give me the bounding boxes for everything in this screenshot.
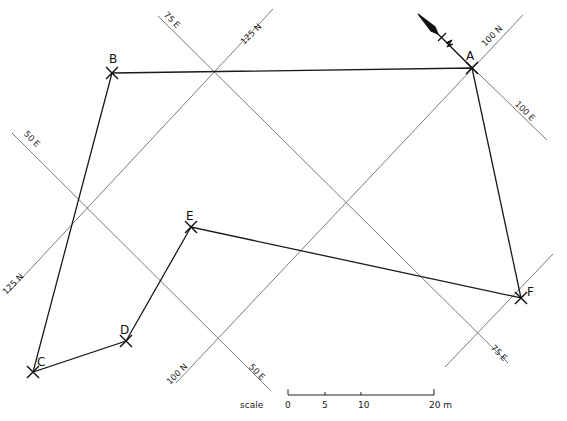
scale-tick-label: 5 [322,400,328,410]
plan-drawing: 75 E75 E125 N125 N50 E50 E100 N100 N100 … [0,0,567,421]
grid-line-125N [9,9,273,292]
station-c: C [27,355,45,378]
station-label: A [466,49,475,63]
grid-label: 100 N [479,23,504,48]
grid-label: 50 E [247,362,267,382]
station-d: D [120,323,132,347]
north-arrow-icon [418,14,472,68]
scale-label: scale [240,400,264,410]
grid-label: 125 N [0,271,25,296]
survey-plan-diagram: 75 E75 E125 N125 N50 E50 E100 N100 N100 … [0,0,567,421]
station-label: C [37,355,45,369]
traverse-lines [33,68,521,372]
traverse-polygon [33,68,521,372]
station-label: D [120,323,129,337]
north-tick [438,33,446,41]
grid-label: 75 E [489,343,509,363]
grid-label: 125 N [238,21,263,46]
arrow-head-icon [418,14,438,34]
station-label: B [109,52,117,66]
station-e: E [185,209,197,233]
stations: ABCDEF [27,49,534,378]
scale-tick-label: 0 [285,400,291,410]
scale-tick-label: 20 m [429,400,452,410]
grid-line-50E [12,133,270,390]
scale-tick-label: 10 [358,400,370,410]
grid-label: 75 E [162,10,182,30]
station-label: F [527,285,534,299]
scale-bar: scale 051020 m [240,389,452,410]
station-label: E [186,209,194,223]
station-f: F [515,285,534,304]
